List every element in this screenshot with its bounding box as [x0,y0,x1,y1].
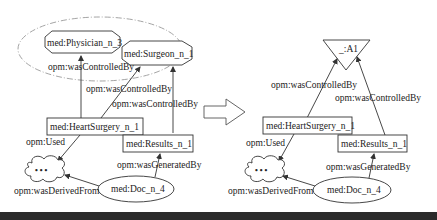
edge-derived-from [65,175,99,186]
edge-label-generated-by: opm:wasGeneratedBy [117,160,202,170]
cloud-ellipsis-right: • • • [255,166,268,175]
node-doc: med:Doc_n_4 [98,176,174,202]
edge-label-surgeon-controlled-1: opm:wasControlledBy [86,84,172,94]
right-graph: _:A1 opm:wasControlledBy opm:wasControll… [228,40,421,203]
node-heart-surgery: med:HeartSurgery_n_1 [47,118,143,135]
node-doc-right-label: med:Doc_n_4 [327,185,381,195]
cloud-ellipsis: • • • [35,166,48,175]
node-doc-label: med:Doc_n_4 [111,184,165,194]
node-surgeon-label: med:Surgeon_n_1 [124,49,194,59]
edge-label-surgeon-controlled-2: opm:wasControlledBy [112,99,198,109]
diagram-canvas: med:Physician_n_3 med:Surgeon_n_1 opm:wa… [0,0,437,220]
node-physician-label: med:Physician_n_3 [47,38,122,48]
node-physician: med:Physician_n_3 [45,31,122,53]
bottom-border-bar [0,212,437,220]
node-results-label: med:Results_n_1 [126,139,192,149]
edge-label-used-right: opm:Used [246,138,285,148]
node-cloud-right: • • • [245,156,284,182]
node-results-right-label: med:Results_n_1 [341,139,407,149]
transform-arrow-icon [204,99,245,125]
edge-label-controlled-1: opm:wasControlledBy [271,80,357,90]
edge-label-derived-from-right: opm:wasDerivedFrom [228,186,314,196]
node-heart-surgery-right: med:HeartSurgery_n_1 [263,117,355,134]
edge-label-physician-controlled: opm:wasControlledBy [48,62,134,72]
node-heart-surgery-label: med:HeartSurgery_n_1 [50,122,139,132]
edge-derived-from-right [283,176,315,186]
edge-label-generated-by-right: opm:wasGeneratedBy [326,162,411,172]
node-cloud: • • • [25,156,64,182]
node-heart-surgery-right-label: med:HeartSurgery_n_1 [266,121,355,131]
node-doc-right: med:Doc_n_4 [313,177,391,203]
node-agent: _:A1 [323,40,370,70]
node-results-right: med:Results_n_1 [338,135,407,152]
node-results: med:Results_n_1 [123,135,193,152]
node-agent-label: _:A1 [338,44,358,54]
edge-label-derived-from: opm:wasDerivedFrom [14,186,100,196]
left-graph: med:Physician_n_3 med:Surgeon_n_1 opm:wa… [14,17,202,202]
edge-label-controlled-2: opm:wasControlledBy [335,93,421,103]
edge-label-used: opm:Used [26,137,65,147]
